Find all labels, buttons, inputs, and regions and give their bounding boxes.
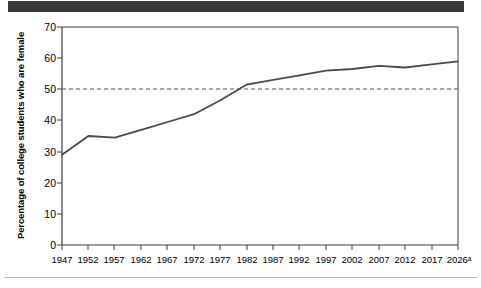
x-axis-ticks bbox=[62, 245, 458, 250]
y-axis-ticks bbox=[57, 27, 62, 245]
footer-rule bbox=[4, 277, 477, 278]
data-series-line bbox=[62, 61, 458, 154]
x-tick-label: 2026ᵃ bbox=[439, 254, 479, 265]
plot-canvas bbox=[0, 0, 481, 288]
line-chart: Percentage of college students who are f… bbox=[0, 0, 481, 288]
